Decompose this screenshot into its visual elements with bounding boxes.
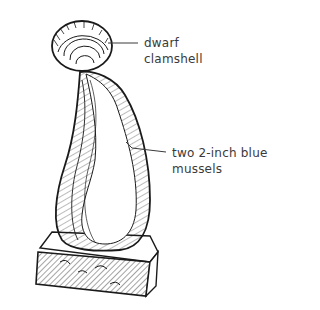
- clamshell-label-line-2: clamshell: [144, 52, 203, 66]
- mussels-label-line-2: mussels: [172, 162, 222, 176]
- mussels-shell: [56, 72, 150, 251]
- dwarf-clamshell: [52, 21, 112, 71]
- mussels-label-line-1: two 2-inch blue: [172, 146, 268, 160]
- clamshell-label-line-1: dwarf: [144, 36, 179, 50]
